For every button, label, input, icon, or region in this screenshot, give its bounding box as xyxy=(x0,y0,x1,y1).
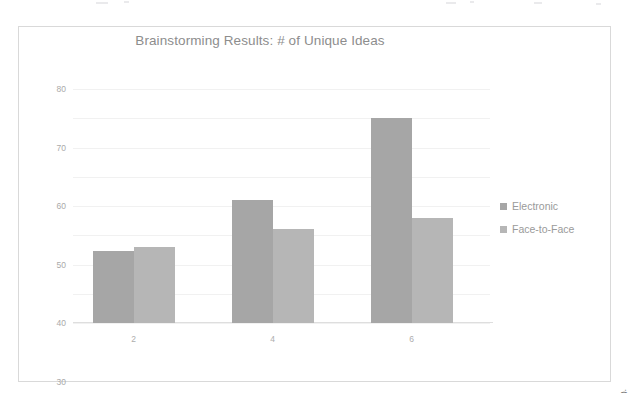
bar[interactable] xyxy=(232,200,273,323)
gridline: 0 xyxy=(73,323,490,324)
y-axis-tick-label: 40 xyxy=(57,318,66,328)
legend-item[interactable]: Electronic xyxy=(500,200,574,212)
x-axis-tick-label: 4 xyxy=(232,334,314,344)
legend-label: Electronic xyxy=(512,200,558,212)
legend-swatch-icon xyxy=(500,203,507,210)
bar[interactable] xyxy=(371,118,412,323)
legend-item[interactable]: Face-to-Face xyxy=(500,223,574,235)
bar-group: 2 xyxy=(93,89,175,323)
x-axis-tick-label: 2 xyxy=(93,334,175,344)
chart-legend: ElectronicFace-to-Face xyxy=(500,200,574,235)
figure-credit: Courtesy of the author. Data source: Gal… xyxy=(618,389,628,393)
bar[interactable] xyxy=(273,229,314,323)
chart-title: Brainstorming Results: # of Unique Ideas xyxy=(40,33,480,48)
legend-label: Face-to-Face xyxy=(512,223,574,235)
bar-group: 6 xyxy=(371,89,453,323)
bar[interactable] xyxy=(93,251,134,323)
y-axis-tick-label: 30 xyxy=(57,377,66,387)
scan-artifacts xyxy=(0,0,642,16)
y-axis-tick-label: 70 xyxy=(57,143,66,153)
x-axis-tick-label: 6 xyxy=(371,334,453,344)
bar-group: 4 xyxy=(232,89,314,323)
plot-area: 01020304050607080 246 xyxy=(73,89,490,323)
bar[interactable] xyxy=(134,247,175,323)
legend-swatch-icon xyxy=(500,226,507,233)
y-axis-tick-label: 60 xyxy=(57,201,66,211)
y-axis-tick-label: 80 xyxy=(57,84,66,94)
bars-layer: 246 xyxy=(73,89,490,323)
y-axis-tick-label: 50 xyxy=(57,260,66,270)
bar[interactable] xyxy=(412,218,453,323)
